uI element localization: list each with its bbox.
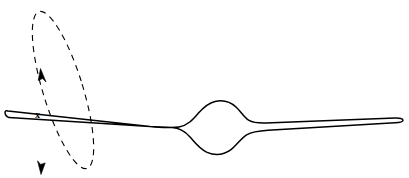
rotation-arrow-down-icon [38,161,46,175]
rotation-arrow-up-icon [38,69,46,83]
rotation-axis-ellipse [20,6,106,175]
wing-planform-outline [5,101,403,155]
point-label-x: x [35,109,40,120]
diagram-canvas: x [0,0,409,178]
wing-rotation-diagram: x [0,0,409,178]
